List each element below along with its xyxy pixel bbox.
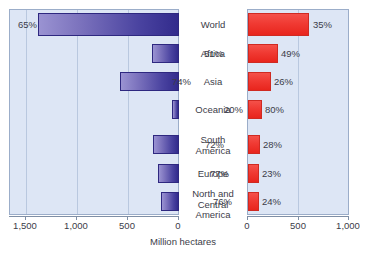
bar-left-africa	[152, 44, 179, 63]
bar-right-world	[248, 13, 309, 36]
category-label-north-central-america: North andCentralAmerica	[180, 189, 246, 221]
gridline-left-1500	[26, 10, 27, 214]
axis-title: Million hectares	[0, 237, 366, 247]
gridline-left-1000	[77, 10, 78, 214]
category-label-oceania: Oceania	[180, 105, 246, 116]
right-plot-area	[247, 9, 349, 215]
bar-left-world	[38, 13, 179, 36]
bar-left-south-america	[153, 135, 179, 154]
tick-label-right-1000: 1,000	[336, 221, 360, 231]
category-label-column: World Africa Asia Oceania SouthAmerica E…	[180, 9, 246, 215]
bar-left-asia	[120, 72, 179, 91]
bar-right-europe	[248, 164, 259, 183]
gridline-left-500	[128, 10, 129, 214]
bar-chart: 65% 51% 74% 20% 72% 77% 76% World Africa…	[0, 0, 366, 256]
value-label-right-world: 35%	[313, 20, 332, 30]
value-label-right-europe: 23%	[262, 169, 281, 179]
category-label-world: World	[180, 20, 246, 31]
value-label-right-africa: 49%	[281, 49, 300, 59]
gridline-right-500	[298, 10, 299, 214]
category-label-south-america: SouthAmerica	[180, 135, 246, 156]
tick-label-left-500: 500	[119, 221, 135, 231]
category-label-asia: Asia	[180, 77, 246, 88]
left-axis-line	[9, 216, 179, 217]
category-label-africa: Africa	[180, 49, 246, 60]
left-plot-area	[9, 9, 179, 215]
tick-label-left-1500: 1,500	[13, 221, 37, 231]
bar-right-africa	[248, 44, 278, 63]
value-label-right-oceania: 80%	[265, 105, 284, 115]
bar-left-europe	[158, 164, 179, 183]
tick-label-left-0: 0	[175, 221, 180, 231]
tick-label-right-500: 500	[290, 221, 306, 231]
tick-label-left-1000: 1,000	[64, 221, 88, 231]
bar-right-north-central-america	[248, 192, 259, 211]
bar-left-oceania	[172, 100, 179, 119]
value-label-right-asia: 26%	[274, 77, 293, 87]
value-label-left-world: 65%	[18, 20, 37, 30]
bar-right-asia	[248, 72, 271, 91]
value-label-right-north-central-america: 24%	[262, 197, 281, 207]
bar-right-oceania	[248, 100, 262, 119]
value-label-right-south-america: 28%	[263, 140, 282, 150]
category-label-europe: Europe	[180, 169, 246, 180]
bar-left-north-central-america	[161, 192, 179, 211]
tick-label-right-0: 0	[244, 221, 249, 231]
bar-right-south-america	[248, 135, 260, 154]
